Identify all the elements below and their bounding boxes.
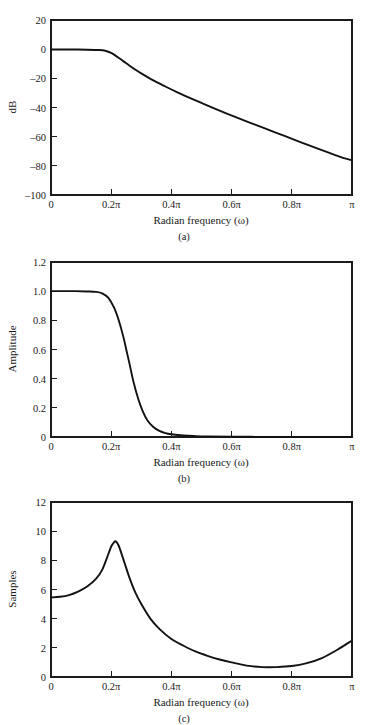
chart-b-yaxis-title: Amplitude	[6, 325, 18, 372]
ytick-label: –20	[29, 73, 46, 84]
chart-b-curve	[51, 291, 352, 437]
ytick-label: 0	[41, 44, 46, 55]
ytick-label: 0	[41, 672, 46, 683]
xtick-label: 0.4π	[162, 681, 181, 692]
xtick-label: 0	[48, 199, 53, 210]
chart-c-caption-svg: (c)	[0, 708, 368, 725]
ytick-label: –60	[29, 132, 46, 143]
ytick-label: –40	[29, 103, 46, 114]
figure-container: 20 0 –20 –40 –60 –80 –100 0 0.2π 0.4π 0.…	[0, 0, 368, 725]
xtick-label: 0.4π	[162, 441, 181, 452]
chart-c-plot-frame	[51, 502, 352, 677]
ytick-label: 10	[36, 526, 47, 537]
xtick-label: 0	[48, 441, 53, 452]
ytick-label: –80	[29, 161, 46, 172]
xtick-label: 0.4π	[162, 199, 181, 210]
ytick-label: 4	[41, 614, 47, 625]
chart-c-yaxis-title: Samples	[6, 570, 18, 607]
xtick-label: π	[349, 681, 355, 692]
chart-c-xtick-labels: 0 0.2π 0.4π 0.6π 0.8π π	[48, 681, 355, 692]
chart-c-xticks	[51, 671, 352, 677]
ytick-label: 0.4	[33, 374, 47, 385]
chart-panel-c: 12 10 8 6 4 2 0 0 0.2π 0.4π 0.6π 0.8π π …	[0, 482, 368, 722]
xtick-label: 0.2π	[102, 681, 121, 692]
xtick-label: 0.8π	[283, 441, 302, 452]
chart-a-curve	[51, 49, 352, 160]
ytick-label: 0	[41, 432, 46, 443]
chart-c-svg: 12 10 8 6 4 2 0 0 0.2π 0.4π 0.6π 0.8π π …	[0, 482, 368, 722]
ytick-label: 1.2	[33, 257, 46, 268]
xtick-label: 0.6π	[222, 441, 241, 452]
chart-b-ytick-labels: 1.2 1.0 0.8 0.6 0.4 0.2 0	[33, 257, 47, 443]
xtick-label: 0.6π	[222, 681, 241, 692]
ytick-label: 0.8	[33, 315, 46, 326]
xtick-label: 0.2π	[102, 199, 121, 210]
ytick-label: 0.2	[33, 403, 46, 414]
chart-c-ytick-labels: 12 10 8 6 4 2 0	[36, 497, 47, 683]
xtick-label: 0.8π	[283, 199, 302, 210]
ytick-label: 6	[41, 585, 46, 596]
chart-c-yticks	[51, 502, 57, 677]
ytick-label: 12	[36, 497, 47, 508]
chart-panel-b: 1.2 1.0 0.8 0.6 0.4 0.2 0 0 0.2π 0.4π 0.…	[0, 242, 368, 482]
ytick-label: 20	[36, 15, 47, 26]
chart-a-xtick-labels: 0 0.2π 0.4π 0.6π 0.8π π	[48, 199, 355, 210]
xtick-label: 0.8π	[283, 681, 302, 692]
chart-b-yticks	[51, 262, 57, 437]
chart-a-ytick-labels: 20 0 –20 –40 –60 –80 –100	[24, 15, 46, 201]
xtick-label: 0.2π	[102, 441, 121, 452]
xtick-label: 0.6π	[222, 199, 241, 210]
ytick-label: 2	[41, 643, 46, 654]
xtick-label: 0	[48, 681, 53, 692]
chart-a-yaxis-title: dB	[6, 101, 18, 114]
chart-a-plot-frame	[51, 20, 352, 195]
xtick-label: π	[349, 441, 355, 452]
ytick-label: 8	[41, 555, 46, 566]
chart-panel-a: 20 0 –20 –40 –60 –80 –100 0 0.2π 0.4π 0.…	[0, 0, 368, 240]
chart-b-xtick-labels: 0 0.2π 0.4π 0.6π 0.8π π	[48, 441, 355, 452]
ytick-label: 0.6	[33, 345, 46, 356]
chart-a-yticks	[51, 20, 57, 195]
ytick-label: –100	[24, 190, 46, 201]
chart-a-svg: 20 0 –20 –40 –60 –80 –100 0 0.2π 0.4π 0.…	[0, 0, 368, 240]
ytick-label: 1.0	[33, 286, 46, 297]
panel-caption-c: (c)	[178, 713, 190, 725]
chart-c-curve	[51, 541, 352, 667]
chart-b-svg: 1.2 1.0 0.8 0.6 0.4 0.2 0 0 0.2π 0.4π 0.…	[0, 242, 368, 482]
xtick-label: π	[349, 199, 355, 210]
chart-b-plot-frame	[51, 262, 352, 437]
chart-a-xticks	[51, 189, 352, 195]
